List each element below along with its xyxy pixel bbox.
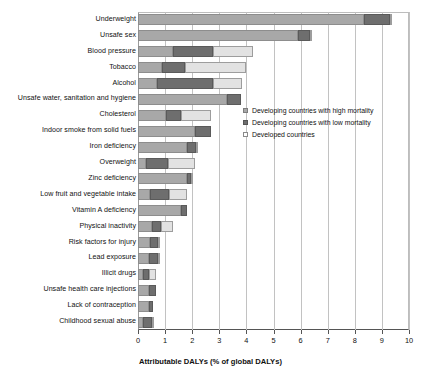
- bar-segment: [149, 269, 156, 280]
- bar-segment: [166, 110, 181, 121]
- bar-segment: [196, 142, 198, 153]
- bar-segment: [138, 158, 146, 169]
- x-axis-tick: [138, 330, 139, 334]
- bar-segment: [168, 158, 195, 169]
- bar-row: [138, 317, 154, 328]
- bar-row: [138, 189, 187, 200]
- x-axis-tick-label: 3: [209, 336, 229, 345]
- category-label: Vitamin A deficiency: [72, 207, 136, 214]
- x-axis-tick: [165, 330, 166, 334]
- category-label: Unsafe water, sanitation and hygiene: [18, 95, 136, 102]
- x-axis-tick-label: 0: [128, 336, 148, 345]
- legend-label: Developing countries with high mortality: [252, 107, 373, 114]
- x-axis-tick-label: 2: [182, 336, 202, 345]
- bar-segment: [138, 173, 187, 184]
- category-label: Cholesterol: [100, 111, 136, 118]
- bar-segment: [138, 126, 195, 137]
- category-label: Tobacco: [109, 64, 136, 71]
- x-axis-tick-label: 10: [399, 336, 419, 345]
- category-label: Lead exposure: [88, 254, 136, 261]
- bar-segment: [191, 173, 193, 184]
- bar-segment: [213, 78, 243, 89]
- bar-segment: [138, 30, 298, 41]
- bar-segment: [169, 189, 187, 200]
- bar-segment: [138, 301, 149, 312]
- x-axis-tick: [382, 330, 383, 334]
- gridline: [409, 12, 410, 330]
- bar-segment: [390, 14, 392, 25]
- bar-segment: [298, 30, 310, 41]
- category-label: Unsafe sex: [100, 32, 136, 39]
- bar-row: [138, 269, 156, 280]
- bar-row: [138, 110, 211, 121]
- gridline: [165, 12, 166, 330]
- bar-row: [138, 173, 193, 184]
- category-label: Unsafe health care injections: [43, 286, 136, 293]
- bar-segment: [138, 285, 149, 296]
- bar-segment: [138, 205, 181, 216]
- legend-item: Developed countries: [243, 128, 373, 140]
- bar-segment: [138, 253, 149, 264]
- plot-area: [138, 12, 409, 330]
- x-axis-title: Attributable DALYs (% of global DALYs): [0, 357, 421, 366]
- category-label: Alcohol: [112, 80, 136, 87]
- bar-segment: [138, 110, 166, 121]
- x-axis-tick-label: 8: [345, 336, 365, 345]
- bar-segment: [143, 317, 151, 328]
- category-label: Illicit drugs: [102, 270, 136, 277]
- bar-row: [138, 94, 241, 105]
- x-axis-tick-label: 5: [264, 336, 284, 345]
- category-label: Underweight: [96, 16, 136, 23]
- gridline: [355, 12, 356, 330]
- bar-segment: [149, 253, 158, 264]
- stacked-bar-chart: UnderweightUnsafe sexBlood pressureTobac…: [0, 0, 421, 386]
- bar-segment: [138, 94, 227, 105]
- bar-segment: [138, 78, 157, 89]
- bar-segment: [364, 14, 390, 25]
- high-mortality-swatch-icon: [243, 108, 248, 113]
- x-axis-tick: [219, 330, 220, 334]
- category-label: Risk factors for injury: [69, 239, 136, 246]
- bar-row: [138, 46, 253, 57]
- x-axis-tick: [328, 330, 329, 334]
- gridline: [274, 12, 275, 330]
- bar-segment: [161, 221, 173, 232]
- bar-segment: [158, 237, 160, 248]
- bar-row: [138, 142, 198, 153]
- x-axis-tick: [192, 330, 193, 334]
- bar-segment: [187, 142, 196, 153]
- category-label: Zinc deficiency: [88, 175, 136, 182]
- bar-segment: [138, 62, 162, 73]
- gridline: [301, 12, 302, 330]
- bar-row: [138, 221, 173, 232]
- category-label: Physical inactivity: [79, 223, 136, 230]
- bar-segment: [185, 62, 246, 73]
- category-label: Blood pressure: [88, 48, 136, 55]
- bar-row: [138, 126, 211, 137]
- bar-segment: [138, 142, 187, 153]
- category-label: Overweight: [100, 159, 136, 166]
- bar-row: [138, 14, 392, 25]
- bar-segment: [173, 46, 212, 57]
- category-label: Indoor smoke from solid fuels: [42, 127, 136, 134]
- legend-item: Developing countries with low mortality: [243, 116, 373, 128]
- category-label: Low fruit and vegetable intake: [40, 191, 136, 198]
- bar-segment: [152, 317, 154, 328]
- gridline: [192, 12, 193, 330]
- bar-segment: [138, 237, 150, 248]
- bar-row: [138, 285, 156, 296]
- bar-segment: [181, 110, 211, 121]
- bar-segment: [195, 126, 211, 137]
- gridline: [219, 12, 220, 330]
- x-axis-tick: [355, 330, 356, 334]
- bar-segment: [310, 30, 312, 41]
- bar-row: [138, 158, 195, 169]
- category-label: Iron deficiency: [90, 143, 137, 150]
- bar-row: [138, 78, 242, 89]
- bar-segment: [150, 189, 169, 200]
- category-label: Lack of contraception: [68, 302, 136, 309]
- category-axis-labels: UnderweightUnsafe sexBlood pressureTobac…: [0, 0, 136, 386]
- bar-segment: [138, 189, 150, 200]
- bar-row: [138, 62, 246, 73]
- low-mortality-swatch-icon: [243, 120, 248, 125]
